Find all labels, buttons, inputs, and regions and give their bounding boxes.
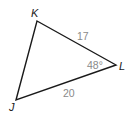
vertex-label-l: L [119, 60, 125, 72]
vertex-label-j: J [8, 101, 15, 113]
angle-measure-l: 48° [87, 59, 103, 71]
side-length-kl: 17 [77, 30, 89, 42]
triangle-diagram: K L J 17 20 48° [0, 0, 133, 133]
side-length-jl: 20 [63, 87, 75, 99]
vertex-label-k: K [31, 7, 39, 19]
